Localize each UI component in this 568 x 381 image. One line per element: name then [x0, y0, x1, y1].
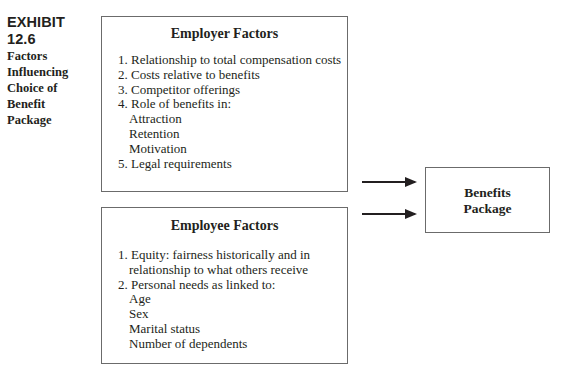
list-item-continuation: relationship to what others receive: [118, 263, 310, 278]
exhibit-number: EXHIBIT 12.6: [7, 14, 97, 48]
list-item: 5. Legal requirements: [118, 157, 341, 172]
list-item: 1. Relationship to total compensation co…: [118, 53, 341, 68]
exhibit-title-line: Influencing: [7, 64, 77, 80]
benefits-package-line: Package: [426, 201, 549, 217]
employer-factors-title: Employer Factors: [102, 26, 347, 42]
exhibit-title-line: Factors: [7, 48, 77, 64]
benefits-package-line: Benefits: [426, 185, 549, 201]
benefits-package-label: Benefits Package: [426, 185, 549, 217]
list-item: 3. Competitor offerings: [118, 83, 341, 98]
arrow-right-icon: [362, 213, 415, 215]
benefits-package-box: Benefits Package: [425, 167, 550, 233]
list-subitem: Marital status: [118, 322, 310, 337]
list-subitem: Attraction: [118, 112, 341, 127]
list-subitem: Age: [118, 292, 310, 307]
exhibit-title-line: Choice of: [7, 80, 77, 96]
list-item: 4. Role of benefits in:: [118, 97, 341, 112]
employee-factors-list: 1. Equity: fairness historically and in …: [118, 248, 310, 352]
employee-factors-title: Employee Factors: [102, 218, 347, 234]
list-subitem: Number of dependents: [118, 337, 310, 352]
arrow-right-icon: [362, 181, 415, 183]
list-item: 2. Personal needs as linked to:: [118, 278, 310, 293]
exhibit-label: EXHIBIT 12.6 Factors Influencing Choice …: [7, 14, 97, 128]
exhibit-title-line: Package: [7, 112, 77, 128]
list-item: 2. Costs relative to benefits: [118, 68, 341, 83]
employer-factors-box: Employer Factors 1. Relationship to tota…: [101, 16, 348, 192]
list-subitem: Retention: [118, 127, 341, 142]
employee-factors-box: Employee Factors 1. Equity: fairness his…: [101, 207, 348, 364]
list-subitem: Sex: [118, 307, 310, 322]
exhibit-title-line: Benefit: [7, 96, 77, 112]
list-item: 1. Equity: fairness historically and in: [118, 248, 310, 263]
list-subitem: Motivation: [118, 142, 341, 157]
employer-factors-list: 1. Relationship to total compensation co…: [118, 53, 341, 171]
